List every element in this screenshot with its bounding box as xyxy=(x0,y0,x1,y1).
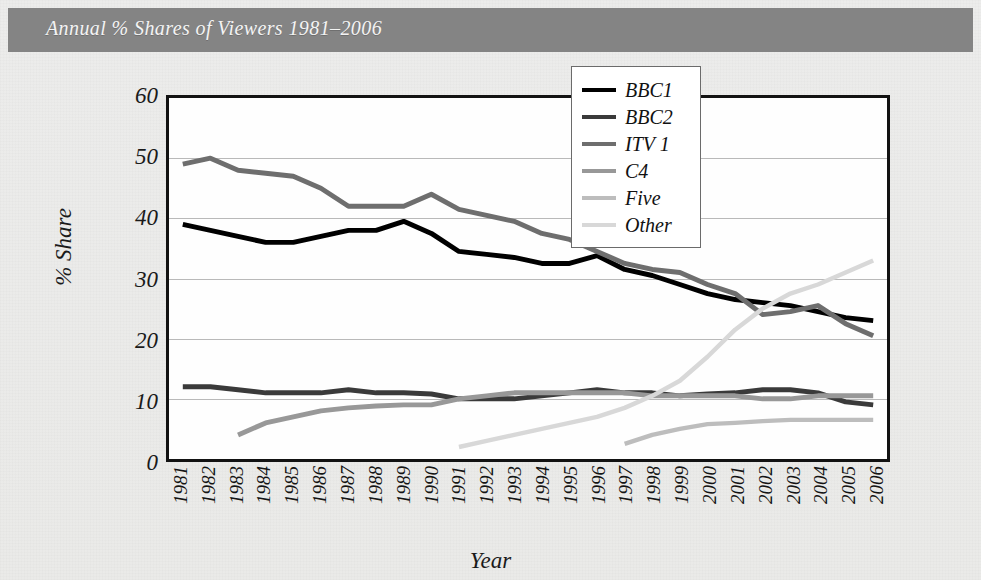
y-axis-tick-label: 30 xyxy=(98,268,158,291)
x-axis-tick-label: 1988 xyxy=(366,466,386,544)
legend-swatch-icon xyxy=(582,142,616,146)
x-axis-ticks: 1981198219831984198519861987198819891990… xyxy=(166,466,890,544)
series-line-five xyxy=(625,420,874,444)
legend-item-other: Other xyxy=(582,211,692,238)
legend-item-label: ITV 1 xyxy=(625,134,670,154)
x-axis-tick-label: 2003 xyxy=(784,466,804,544)
series-line-bbc2 xyxy=(183,387,873,405)
x-axis-tick-label: 1991 xyxy=(449,466,469,544)
legend-item-label: BBC2 xyxy=(625,107,673,127)
legend-item-label: Other xyxy=(625,215,672,235)
x-axis-tick-label: 1994 xyxy=(533,466,553,544)
plot-area xyxy=(166,95,890,462)
legend-swatch-icon xyxy=(582,223,616,227)
plot-inner xyxy=(169,98,887,459)
x-axis-tick-label: 1989 xyxy=(394,466,414,544)
legend-item-five: Five xyxy=(582,184,692,211)
x-axis-tick-label: 2002 xyxy=(756,466,776,544)
y-axis-tick-label: 50 xyxy=(98,145,158,168)
legend-swatch-icon xyxy=(582,169,616,173)
x-axis-tick-label: 2004 xyxy=(811,466,831,544)
y-axis-tick-label: 40 xyxy=(98,206,158,229)
series-line-c4 xyxy=(238,393,873,435)
y-axis-tick-label: 60 xyxy=(98,84,158,107)
legend-item-label: BBC1 xyxy=(625,80,673,100)
x-axis-tick-label: 1998 xyxy=(644,466,664,544)
x-axis-tick-label: 1984 xyxy=(254,466,274,544)
legend-item-label: Five xyxy=(625,188,661,208)
y-axis-tick-label: 20 xyxy=(98,329,158,352)
legend-item-bbc2: BBC2 xyxy=(582,103,692,130)
x-axis-tick-label: 2005 xyxy=(839,466,859,544)
x-axis-tick-label: 2001 xyxy=(728,466,748,544)
x-axis-tick-label: 1982 xyxy=(199,466,219,544)
y-axis-label: % Share xyxy=(51,177,77,317)
x-axis-tick-label: 1997 xyxy=(616,466,636,544)
legend-item-c4: C4 xyxy=(582,157,692,184)
legend-swatch-icon xyxy=(582,115,616,119)
y-axis-tick-label: 0 xyxy=(98,451,158,474)
chart-legend: BBC1BBC2ITV 1C4FiveOther xyxy=(571,66,701,248)
x-axis-tick-label: 1990 xyxy=(422,466,442,544)
x-axis-label: Year xyxy=(0,548,981,574)
legend-item-itv-1: ITV 1 xyxy=(582,130,692,157)
x-axis-tick-label: 1987 xyxy=(338,466,358,544)
y-axis-ticks: 0102030405060 xyxy=(96,95,158,462)
x-axis-tick-label: 1993 xyxy=(505,466,525,544)
legend-item-label: C4 xyxy=(625,161,648,181)
chart-figure: 0102030405060 % Share 198119821983198419… xyxy=(0,52,981,580)
x-axis-tick-label: 1981 xyxy=(171,466,191,544)
title-band: Annual % Shares of Viewers 1981–2006 xyxy=(8,8,973,52)
legend-swatch-icon xyxy=(582,196,616,200)
x-axis-tick-label: 1995 xyxy=(561,466,581,544)
x-axis-tick-label: 1986 xyxy=(310,466,330,544)
legend-item-bbc1: BBC1 xyxy=(582,76,692,103)
series-line-itv-1 xyxy=(183,158,873,335)
legend-swatch-icon xyxy=(582,88,616,92)
x-axis-tick-label: 1985 xyxy=(282,466,302,544)
x-axis-tick-label: 2000 xyxy=(700,466,720,544)
x-axis-tick-label: 1983 xyxy=(227,466,247,544)
y-axis-tick-label: 10 xyxy=(98,390,158,413)
page-title: Annual % Shares of Viewers 1981–2006 xyxy=(46,17,382,40)
series-lines xyxy=(169,98,887,459)
x-axis-tick-label: 1999 xyxy=(672,466,692,544)
x-axis-tick-label: 1992 xyxy=(477,466,497,544)
x-axis-tick-label: 1996 xyxy=(589,466,609,544)
x-axis-tick-label: 2006 xyxy=(867,466,887,544)
